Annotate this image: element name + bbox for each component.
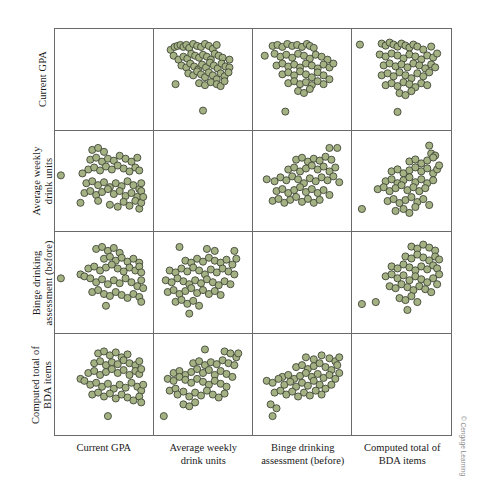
scatter-point — [320, 81, 327, 88]
column-label-0-line1: Current GPA — [76, 442, 131, 453]
scatter-point — [428, 289, 435, 296]
scatter-point — [106, 201, 113, 208]
scatter-panel — [352, 131, 451, 233]
scatter-point — [138, 365, 145, 372]
scatter-point — [138, 269, 145, 276]
row-label-1-line2: drink units — [42, 146, 54, 215]
scatter-point — [223, 383, 230, 390]
scatter-panel — [253, 29, 352, 131]
scatter-point — [372, 298, 379, 305]
scatter-point — [140, 381, 147, 388]
scatter-panel — [154, 232, 253, 334]
scatter-point — [263, 175, 270, 182]
scatter-point — [180, 388, 187, 395]
scatter-point — [296, 183, 303, 190]
scatter-points — [253, 334, 351, 436]
scatter-point — [112, 348, 119, 355]
scatter-point — [287, 378, 294, 385]
scatter-point — [140, 193, 147, 200]
scatter-point — [304, 382, 311, 389]
scatter-point — [356, 41, 363, 48]
scatter-point — [428, 43, 435, 50]
scatter-point — [231, 361, 238, 368]
column-label-2: Binge drinking assessment (before) — [253, 440, 353, 478]
scatter-point — [100, 178, 107, 185]
scatter-point — [436, 161, 443, 168]
scatter-point — [188, 285, 195, 292]
scatter-points — [154, 334, 252, 436]
scatter-point — [336, 369, 343, 376]
scatter-point — [412, 203, 419, 210]
scatter-points — [154, 29, 252, 130]
scatter-point — [400, 272, 407, 279]
scatter-point — [326, 144, 333, 151]
scatter-point — [126, 202, 133, 209]
scatter-point — [330, 60, 337, 67]
scatter-panel — [55, 131, 154, 233]
scatter-point — [424, 164, 431, 171]
scatter-point — [289, 388, 296, 395]
scatter-point — [227, 281, 234, 288]
scatter-point — [330, 172, 337, 179]
scatter-point — [136, 357, 143, 364]
row-label-2-line1: Binge drinking — [31, 251, 42, 316]
scatter-points — [55, 232, 153, 333]
row-label-0-line1: Current GPA — [37, 51, 48, 107]
scatter-point — [106, 390, 113, 397]
scatter-point — [57, 171, 64, 178]
scatter-point — [273, 404, 280, 411]
scatter-point — [231, 247, 238, 254]
scatter-point — [57, 275, 64, 282]
scatter-point — [358, 205, 365, 212]
column-label-1-line2: drink units — [154, 455, 254, 468]
scatter-point — [104, 185, 111, 192]
scatter-point — [282, 108, 289, 115]
scatter-panel — [154, 334, 253, 436]
scatter-points — [253, 131, 351, 232]
scatter-point — [231, 271, 238, 278]
scatter-panel — [154, 29, 253, 131]
scatter-point — [334, 144, 341, 151]
column-label-1: Average weekly drink units — [154, 440, 254, 478]
scatterplot-matrix-figure: Current GPA Average weekly drink units B… — [0, 0, 493, 496]
scatter-point — [326, 76, 333, 83]
scatter-point — [318, 391, 325, 398]
scatter-point — [79, 169, 86, 176]
scatter-point — [102, 302, 109, 309]
scatter-point — [98, 276, 105, 283]
scatter-point — [434, 281, 441, 288]
scatter-point — [320, 186, 327, 193]
scatter-point — [104, 412, 111, 419]
scatter-point — [316, 196, 323, 203]
scatter-point — [422, 184, 429, 191]
scatter-point — [95, 197, 102, 204]
scatter-point — [334, 361, 341, 368]
scatter-panel — [352, 29, 451, 131]
column-label-2-line2: assessment (before) — [253, 455, 353, 468]
scatter-point — [211, 247, 218, 254]
scatter-points — [352, 232, 451, 333]
scatter-point — [217, 291, 224, 298]
column-label-3-line1: Computed total of — [364, 442, 440, 453]
scatter-point — [426, 142, 433, 149]
scatter-points — [352, 29, 451, 130]
scatter-point — [406, 173, 413, 180]
scatter-panel-empty — [55, 29, 154, 131]
scatter-points — [154, 232, 252, 333]
scatter-point — [404, 306, 411, 313]
scatter-panel — [55, 232, 154, 334]
scatter-point — [138, 179, 145, 186]
copyright-credit-text: © Cengage Learning — [460, 416, 467, 476]
scatter-point — [229, 261, 236, 268]
scatter-point — [394, 108, 401, 115]
scatter-point — [392, 207, 399, 214]
column-label-0: Current GPA — [54, 440, 154, 478]
row-label-2-line2: assessment (before) — [43, 241, 55, 326]
scatter-point — [408, 293, 415, 300]
scatter-point — [114, 203, 121, 210]
column-label-3-line2: BDA items — [353, 455, 453, 468]
scatter-panel-empty — [352, 334, 451, 436]
scatter-point — [229, 373, 236, 380]
scatter-point — [328, 156, 335, 163]
scatter-point — [134, 154, 141, 161]
